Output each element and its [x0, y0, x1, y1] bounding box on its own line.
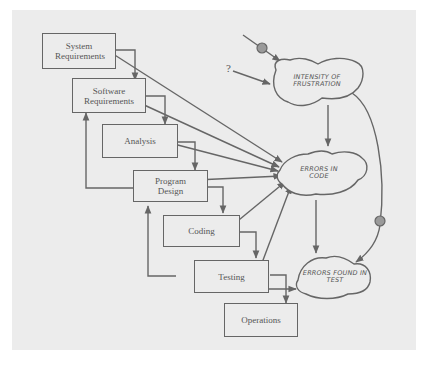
rate-node-icon	[257, 43, 267, 53]
cloud-label-errors-in-code: ERRORS IN CODE	[296, 166, 342, 180]
phase-coding: Coding	[163, 215, 240, 247]
rate-node-icon	[375, 216, 385, 226]
phase-operations: Operations	[224, 303, 298, 337]
phase-label: System Requirements	[55, 41, 103, 61]
phase-system-requirements: System Requirements	[42, 33, 116, 69]
arrow-coding-to-testing	[238, 232, 256, 258]
cloud-label-errors-found-in-test: ERRORS FOUND IN TEST	[302, 270, 368, 284]
unknown-input-label: ?	[226, 62, 231, 74]
arrow-design-to-errors	[196, 176, 281, 180]
phase-label: Operations	[241, 315, 281, 325]
phase-label: Analysis	[124, 136, 156, 146]
cloud-label-frustration: INTENSITY OF FRUSTRATION	[282, 74, 352, 88]
arrow-question-to-frustration	[233, 71, 270, 84]
phase-analysis: Analysis	[102, 124, 178, 158]
phase-label: Testing	[218, 272, 244, 282]
phase-testing: Testing	[194, 260, 269, 293]
phase-label: Program Design	[151, 176, 191, 196]
phase-label: Software Requirements	[81, 86, 137, 106]
phase-label: Coding	[188, 226, 215, 236]
arrow-analysis-to-errors	[170, 143, 278, 171]
phase-program-design: Program Design	[133, 170, 208, 202]
phase-software-requirements: Software Requirements	[72, 78, 146, 113]
